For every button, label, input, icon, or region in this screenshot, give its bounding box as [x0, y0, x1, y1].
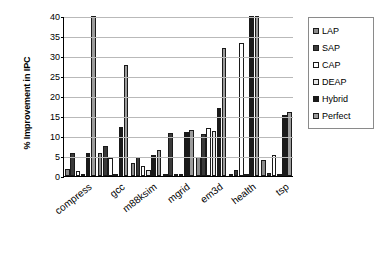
bar-tsp-DEAP	[277, 174, 282, 176]
gridline	[64, 37, 293, 38]
legend-swatch-icon	[313, 96, 319, 102]
bar-m88ksim-CAP	[141, 166, 146, 176]
y-axis-tick-mark	[61, 137, 64, 138]
y-axis-tick-mark	[61, 77, 64, 78]
legend-swatch-icon	[313, 113, 319, 119]
bar-mgrid-Hybrid	[184, 132, 189, 176]
chart-legend: LAPSAPCAPDEAPHybridPerfect	[308, 17, 374, 129]
x-axis-labels: compressgccm88ksimmgridem3dhealthtsp	[63, 178, 293, 248]
gridline	[64, 157, 293, 158]
bar-health-LAP	[229, 174, 234, 176]
bar-m88ksim-Perfect	[157, 150, 162, 176]
bar-tsp-Perfect	[287, 112, 292, 176]
y-axis-tick-mark	[61, 117, 64, 118]
bar-compress-Perfect	[91, 16, 96, 176]
y-axis-tick-mark	[61, 37, 64, 38]
gridline	[64, 137, 293, 138]
y-axis-tick-label: 5	[55, 152, 60, 162]
gridline	[64, 57, 293, 58]
bar-em3d-Hybrid	[217, 108, 222, 176]
y-axis-tick-label: 35	[50, 32, 60, 42]
y-axis-tick-label: 30	[50, 52, 60, 62]
legend-label: Perfect	[322, 111, 351, 121]
legend-item-CAP[interactable]: CAP	[313, 56, 370, 73]
gridline	[64, 117, 293, 118]
y-axis-tick-mark	[61, 17, 64, 18]
plot-area: 0510152025303540	[63, 17, 293, 177]
legend-swatch-icon	[313, 62, 319, 68]
y-axis-tick-label: 10	[50, 132, 60, 142]
legend-label: DEAP	[322, 77, 347, 87]
bar-health-DEAP	[244, 174, 249, 176]
bar-mgrid-CAP	[174, 174, 179, 176]
x-axis-label-gcc: gcc	[107, 181, 126, 199]
bar-gcc-CAP	[108, 158, 113, 176]
x-axis-label-em3d: em3d	[198, 181, 224, 205]
legend-item-Perfect[interactable]: Perfect	[313, 107, 370, 124]
bar-m88ksim-DEAP	[146, 170, 151, 176]
bar-compress-DEAP	[81, 174, 86, 176]
x-axis-label-mgrid: mgrid	[166, 181, 192, 205]
bar-m88ksim-SAP	[136, 157, 141, 176]
x-axis-label-m88ksim: m88ksim	[121, 181, 159, 214]
legend-swatch-icon	[313, 79, 319, 85]
bar-gcc-DEAP	[113, 174, 118, 176]
legend-item-DEAP[interactable]: DEAP	[313, 73, 370, 90]
bar-m88ksim-LAP	[131, 163, 136, 176]
x-axis-label-compress: compress	[52, 181, 93, 216]
y-axis-tick-mark	[61, 97, 64, 98]
bar-health-Hybrid	[249, 16, 254, 176]
bar-gcc-Hybrid	[119, 127, 124, 176]
bar-mgrid-LAP	[163, 174, 168, 176]
bar-mgrid-DEAP	[179, 174, 184, 176]
legend-label: CAP	[322, 60, 341, 70]
y-axis-tick-mark	[61, 57, 64, 58]
y-axis-tick-mark	[61, 157, 64, 158]
bar-tsp-LAP	[261, 160, 266, 176]
bar-health-Perfect	[255, 16, 260, 176]
bar-health-SAP	[234, 170, 239, 176]
y-axis-tick-label: 25	[50, 72, 60, 82]
legend-item-SAP[interactable]: SAP	[313, 39, 370, 56]
legend-item-Hybrid[interactable]: Hybrid	[313, 90, 370, 107]
x-axis-label-health: health	[229, 181, 257, 206]
legend-swatch-icon	[313, 45, 319, 51]
bar-em3d-SAP	[201, 134, 206, 176]
chart-container: % Improvement in IPC 0510152025303540 co…	[0, 0, 384, 255]
bar-gcc-SAP	[103, 146, 108, 176]
bar-em3d-LAP	[196, 157, 201, 176]
bar-em3d-CAP	[206, 128, 211, 176]
bar-tsp-SAP	[267, 173, 272, 176]
gridline	[64, 17, 293, 18]
legend-swatch-icon	[313, 28, 319, 34]
bar-compress-LAP	[65, 169, 70, 176]
y-axis-tick-label: 0	[55, 172, 60, 182]
gridline	[64, 77, 293, 78]
x-axis-label-tsp: tsp	[273, 181, 290, 198]
legend-item-LAP[interactable]: LAP	[313, 22, 370, 39]
y-axis-tick-label: 40	[50, 12, 60, 22]
legend-label: SAP	[322, 43, 340, 53]
bar-gcc-Perfect	[124, 65, 129, 176]
y-axis-tick-label: 15	[50, 112, 60, 122]
bar-tsp-Hybrid	[282, 115, 287, 176]
gridline	[64, 97, 293, 98]
y-axis-title: % Improvement in IPC	[22, 18, 32, 188]
bar-mgrid-SAP	[168, 133, 173, 176]
bar-compress-CAP	[76, 171, 81, 176]
y-axis-tick-label: 20	[50, 92, 60, 102]
legend-label: Hybrid	[322, 94, 348, 104]
legend-label: LAP	[322, 26, 339, 36]
